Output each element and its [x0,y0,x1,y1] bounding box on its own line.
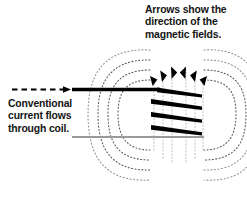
field-arrow-icon [190,71,197,82]
coil-turns [151,88,202,136]
field-arrow-icon [200,76,207,86]
field-arrow-icon [171,67,177,79]
field-arrow-icon [180,67,186,79]
magnetic-field-line-left-outer [88,50,150,180]
field-direction-arrows [150,67,207,86]
figure-canvas: Arrows show the direction of the magneti… [0,0,247,205]
field-arrow-icon [160,71,167,82]
magnetic-field-lines-right [204,70,246,160]
field-arrow-icon [150,76,157,86]
conventional-current-caption: Conventional current flows through coil. [8,98,72,135]
magnetic-field-lines-left [98,60,150,170]
magnetic-field-line-right-outer [204,50,247,180]
arrows-direction-caption: Arrows show the direction of the magneti… [145,4,226,41]
